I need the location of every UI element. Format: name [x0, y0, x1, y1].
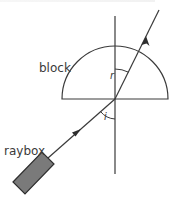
incident-ray [48, 99, 115, 158]
angle-i-label: i [104, 112, 107, 122]
raybox [13, 152, 54, 194]
raybox-label: raybox [4, 145, 45, 157]
angle-r-arc [115, 69, 129, 72]
refracted-arrow-icon [142, 36, 150, 46]
refracted-ray [115, 10, 159, 99]
angle-i-arc [101, 112, 116, 120]
block-label: block [39, 62, 71, 74]
angle-r-label: r [110, 71, 114, 81]
refraction-diagram [0, 0, 173, 199]
